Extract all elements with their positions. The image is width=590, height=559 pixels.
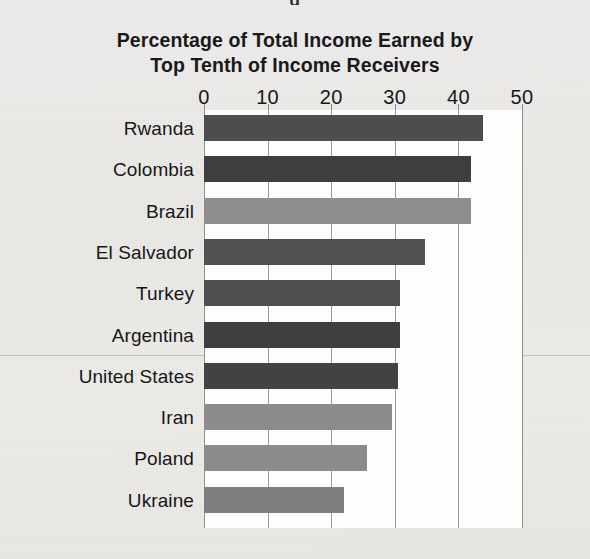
- bar: [204, 115, 483, 141]
- category-label: Iran: [0, 407, 194, 429]
- category-label: Poland: [0, 448, 194, 470]
- x-axis-tick-label: 50: [500, 86, 544, 109]
- category-label: Ukraine: [0, 490, 194, 512]
- bar: [204, 198, 471, 224]
- x-axis-tick-label: 40: [436, 86, 480, 109]
- bar: [204, 322, 400, 348]
- gridline-50: [522, 110, 523, 528]
- bar: [204, 280, 400, 306]
- category-label: Colombia: [0, 159, 194, 181]
- category-label: Brazil: [0, 201, 194, 223]
- bar: [204, 363, 398, 389]
- x-axis-tick-label: 20: [309, 86, 353, 109]
- bar: [204, 239, 425, 265]
- bar: [204, 404, 392, 430]
- category-label: El Salvador: [0, 242, 194, 264]
- bar-chart: 01020304050RwandaColombiaBrazilEl Salvad…: [0, 0, 590, 559]
- x-axis-tick-label: 10: [246, 86, 290, 109]
- category-label: United States: [0, 366, 194, 388]
- bar: [204, 487, 344, 513]
- category-label: Rwanda: [0, 118, 194, 140]
- bar: [204, 445, 367, 471]
- category-label: Argentina: [0, 325, 194, 347]
- category-label: Turkey: [0, 283, 194, 305]
- x-axis-tick-label: 0: [182, 86, 226, 109]
- x-axis-tick-label: 30: [373, 86, 417, 109]
- bar: [204, 156, 471, 182]
